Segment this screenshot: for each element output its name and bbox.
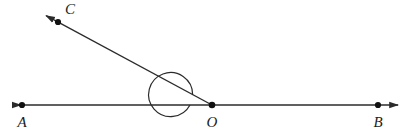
geometry-canvas: A O B C [0,0,415,135]
point-a-dot [19,102,25,108]
geometry-diagram: A O B C [0,0,415,135]
point-a-label: A [16,114,27,130]
point-o-label: O [207,114,218,130]
point-c-dot [55,19,61,25]
point-b-dot [375,102,381,108]
point-b-label: B [373,114,382,130]
point-o-dot [209,102,216,109]
ray-oc [46,16,212,105]
angle-aoc-arc [149,73,193,117]
point-c-label: C [65,1,76,17]
